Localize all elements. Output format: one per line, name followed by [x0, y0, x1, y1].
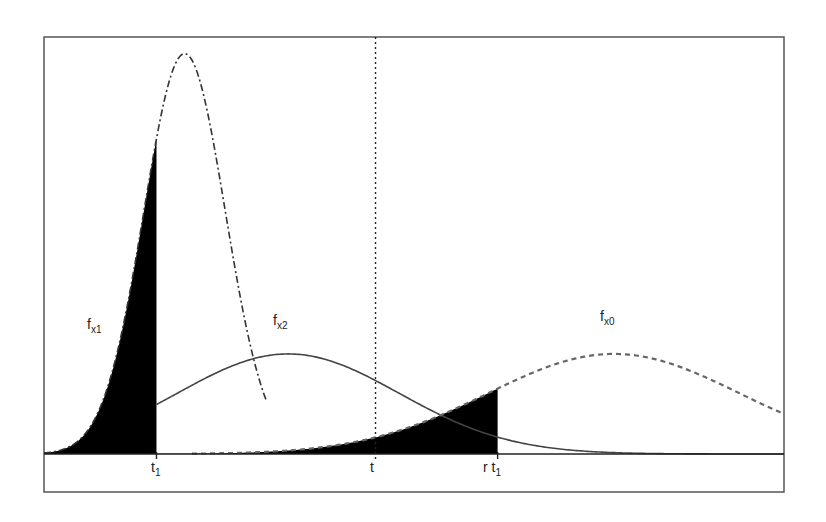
- tick-label-r-t1: r t1: [483, 459, 501, 478]
- label-fx1: fx1: [87, 316, 102, 335]
- tick-label-t1: t1: [151, 459, 161, 478]
- markers: [156, 37, 497, 460]
- figure: fx1 fx2 fx0 t1 t r t1: [0, 0, 826, 522]
- label-fx0: fx0: [600, 308, 615, 327]
- shaded-regions: [44, 139, 498, 454]
- tick-label-t: t: [370, 459, 374, 475]
- label-fx2: fx2: [273, 312, 288, 331]
